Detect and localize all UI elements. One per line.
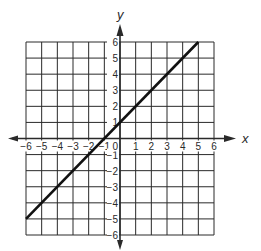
x-axis-label: x <box>241 131 249 146</box>
y-tick-label: −5 <box>107 214 119 225</box>
arrow-right-icon <box>224 135 236 142</box>
x-tick-label: 4 <box>180 141 186 152</box>
y-tick-label: −2 <box>107 166 119 177</box>
arrow-left-icon <box>8 136 18 142</box>
x-tick-label: 3 <box>164 141 170 152</box>
y-tick-label: −6 <box>107 230 119 241</box>
y-tick-label: 4 <box>112 69 118 80</box>
x-tick-label: −5 <box>36 141 48 152</box>
y-axis-label: y <box>116 7 125 22</box>
y-tick-label: −4 <box>107 198 119 209</box>
y-tick-label: −3 <box>107 182 119 193</box>
origin-label: 0 <box>112 141 118 152</box>
x-tick-label: 2 <box>149 141 155 152</box>
x-tick-label: −4 <box>52 141 64 152</box>
coordinate-plane: −6−5−4−3−2−1123456−6−5−4−3−2−11234560 x … <box>0 0 261 251</box>
x-tick-label: −6 <box>20 141 32 152</box>
x-tick-label: 6 <box>211 141 217 152</box>
y-tick-label: 6 <box>112 37 118 48</box>
arrow-down-icon <box>117 240 123 250</box>
x-tick-label: 1 <box>133 141 139 152</box>
x-tick-label: 5 <box>196 141 202 152</box>
x-tick-label: −3 <box>67 141 79 152</box>
y-tick-label: 2 <box>112 101 118 112</box>
y-tick-label: 3 <box>112 85 118 96</box>
arrow-up-icon <box>117 24 124 36</box>
y-tick-label: 5 <box>112 53 118 64</box>
